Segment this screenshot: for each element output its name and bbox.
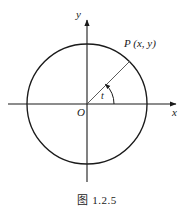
angle-arc [106,84,114,104]
radius-line-to-point-p [87,61,130,104]
figure-container: y x O t P (x, y) 图 1.2.5 [0,0,194,215]
figure-caption: 图 1.2.5 [0,191,194,207]
point-p-label: P (x, y) [124,38,156,49]
x-axis-label: x [172,107,177,118]
origin-label: O [77,107,85,118]
y-axis-label: y [76,9,81,20]
unit-circle-diagram [0,0,194,215]
angle-label: t [101,91,104,101]
